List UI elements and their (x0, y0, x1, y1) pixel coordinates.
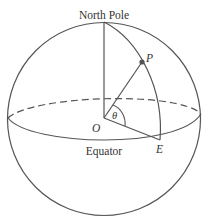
point-p-dot (139, 59, 144, 64)
meridian-arc (104, 22, 160, 140)
north-pole-label: North Pole (79, 9, 129, 21)
point-p-label: P (145, 52, 153, 64)
sphere-diagram: North Pole P O θ E Equator (0, 0, 208, 218)
point-e-label: E (155, 143, 163, 155)
radius-op (104, 62, 142, 118)
theta-label: θ (112, 110, 117, 121)
radius-oe (104, 118, 160, 140)
equator-label: Equator (86, 145, 123, 158)
origin-label: O (92, 122, 101, 134)
